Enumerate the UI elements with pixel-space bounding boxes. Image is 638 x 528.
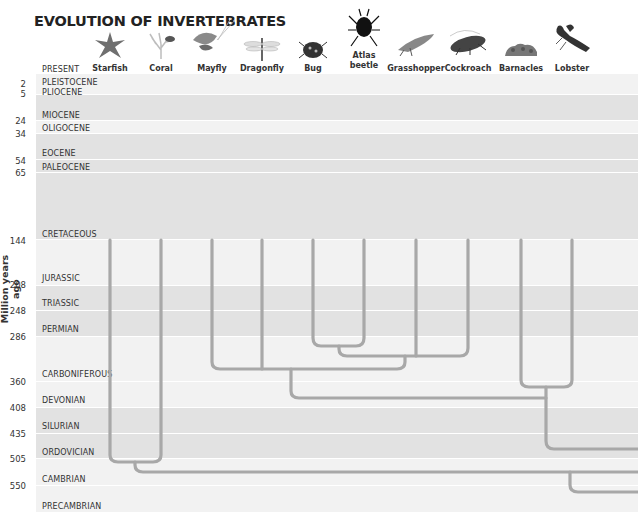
- phylogenetic-tree: [0, 0, 638, 528]
- animal-label: beetle: [334, 61, 394, 70]
- bug-icon: [298, 38, 328, 66]
- cockroach-icon: [444, 28, 492, 60]
- barnacles-icon: [503, 40, 539, 62]
- animal-label: Cockroach: [438, 64, 498, 73]
- lobster-icon: [552, 22, 592, 62]
- grasshopper-icon: [394, 30, 438, 60]
- mayfly-icon: [187, 18, 237, 62]
- animal-label: Grasshopper: [386, 64, 446, 73]
- dragonfly-icon: [242, 32, 282, 66]
- animal-label: Lobster: [542, 64, 602, 73]
- starfish-icon: [93, 30, 127, 64]
- atlas-beetle-icon: [347, 8, 381, 54]
- animal-label: Atlas: [334, 51, 394, 60]
- coral-icon: [144, 30, 178, 64]
